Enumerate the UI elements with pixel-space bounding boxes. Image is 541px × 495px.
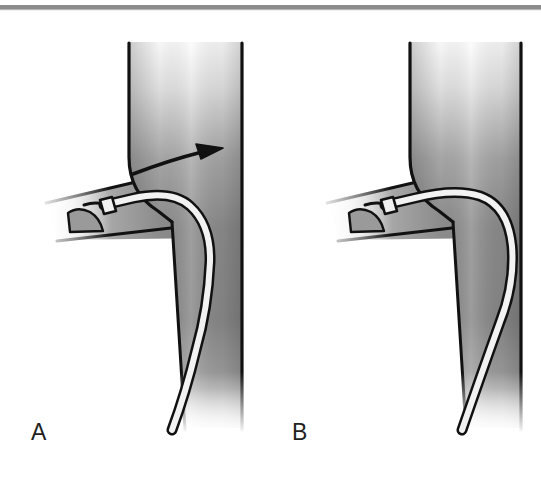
figure-root: A B [0, 0, 541, 495]
figure-canvas [0, 0, 541, 495]
top-divider-rule [0, 5, 541, 10]
panel-label-a: A [31, 421, 47, 444]
panel-label-b: B [292, 421, 308, 444]
catheter-tip-a [100, 197, 116, 214]
panel-a [36, 42, 260, 434]
panel-b [317, 42, 541, 434]
catheter-tip-b [381, 197, 397, 214]
